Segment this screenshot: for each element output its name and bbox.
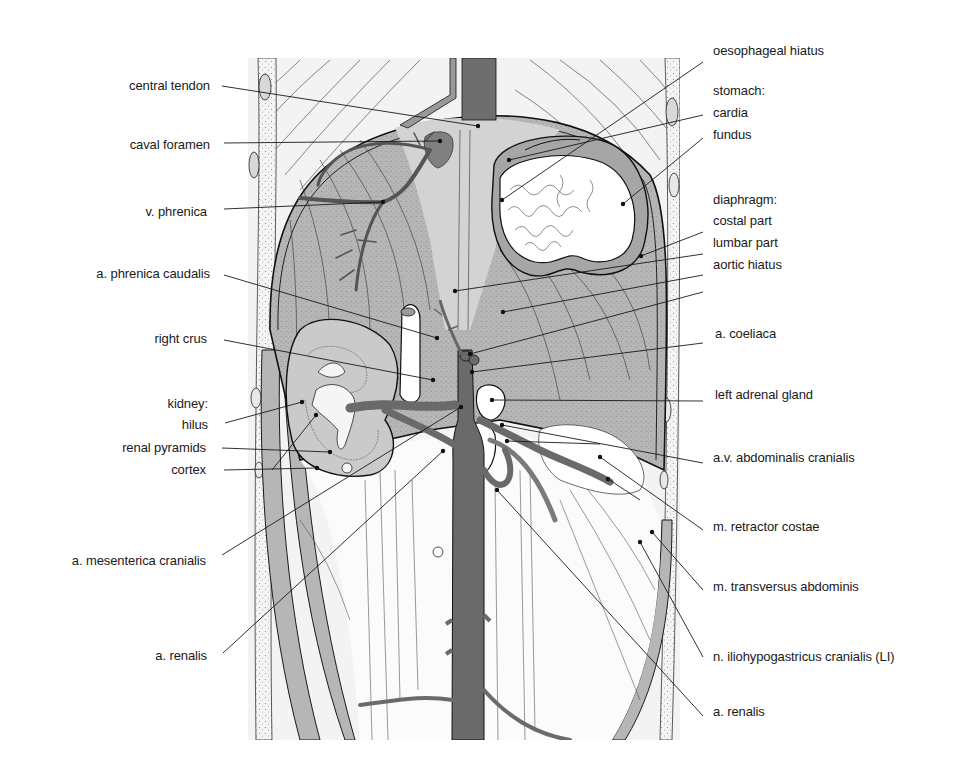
label-lumbar-part: lumbar part [713,235,778,251]
leader-dot-right-crus [431,378,435,382]
label-cardia: cardia [713,105,748,121]
leader-dot-cortex [315,466,319,470]
leader-dot-lumbar-part [453,289,457,293]
right-adrenal-gland [400,305,420,403]
label-right-crus: right crus [155,331,207,347]
leader-dot-v-phrenica [381,200,385,204]
label-costal-part: costal part [713,213,772,229]
leader-dot-left-adrenal-gland [490,398,494,402]
leader-dot-hilus [300,400,304,404]
leader-dot-m-transversus-abdominis [650,530,654,534]
label-kidney-heading: kidney: [168,396,209,412]
label-a-mesenterica-cranialis: a. mesenterica cranialis [72,553,206,569]
leader-dot-oesophageal-hiatus [500,198,504,202]
leader-dot-caval-foramen [438,139,442,143]
label-renal-pyramids: renal pyramids [122,440,206,456]
label-av-abdominalis-cranialis: a.v. abdominalis cranialis [713,450,855,466]
label-m-transversus-abdominis: m. transversus abdominis [713,579,859,595]
stomach [492,136,648,276]
leader-dot-av-abdominalis-cranialis [500,423,504,427]
leader-dot-a-renalis-right [495,488,499,492]
label-central-tendon: central tendon [129,78,210,94]
label-diaphragm-heading: diaphragm: [713,192,777,208]
label-fundus: fundus [713,127,751,143]
leader-dot-fundus [621,202,625,206]
leader-dot-a-coeliaca-2 [468,352,472,356]
label-v-phrenica: v. phrenica [145,204,207,220]
label-aortic-hiatus: aortic hiatus [713,257,782,273]
leader-dot-a-renalis-left [441,449,445,453]
label-a-phrenica-caudalis: a. phrenica caudalis [96,266,210,282]
leader-dot-a-coeliaca [470,370,474,374]
label-a-renalis-right: a. renalis [713,704,765,720]
right-kidney [286,319,397,476]
leader-dot-central-tendon [476,124,480,128]
leader-dot-n-iliohypogastricus-cranialis [638,540,642,544]
label-left-adrenal-gland: left adrenal gland [715,387,813,403]
leader-dot-cardia [507,158,511,162]
label-n-iliohypogastricus-cranialis: n. iliohypogastricus cranialis (LI) [713,649,894,665]
label-caval-foramen: caval foramen [130,137,210,153]
leader-dot-renal-pyramids [328,450,332,454]
leader-dot-m-retractor-costae [598,455,602,459]
leader-dot-m-retractor-costae-2 [606,477,610,481]
label-oesophageal-hiatus: oesophageal hiatus [713,43,824,59]
leader-dot-kidney-cortex-line [314,413,318,417]
leader-dot-costal-part [639,254,643,258]
label-hilus: hilus [182,417,208,433]
label-stomach-heading: stomach: [713,83,765,99]
leader-dot-a-mesenterica-cranialis [459,405,463,409]
leader-dot-a-phrenica-caudalis [435,336,439,340]
leader-dot-aortic-hiatus [501,310,505,314]
label-cortex: cortex [171,462,206,478]
label-m-retractor-costae: m. retractor costae [713,519,819,535]
label-a-renalis-left: a. renalis [155,648,207,664]
leader-dot-av-abdominalis-cranialis-2 [505,439,509,443]
label-a-coeliaca: a. coeliaca [715,326,776,342]
